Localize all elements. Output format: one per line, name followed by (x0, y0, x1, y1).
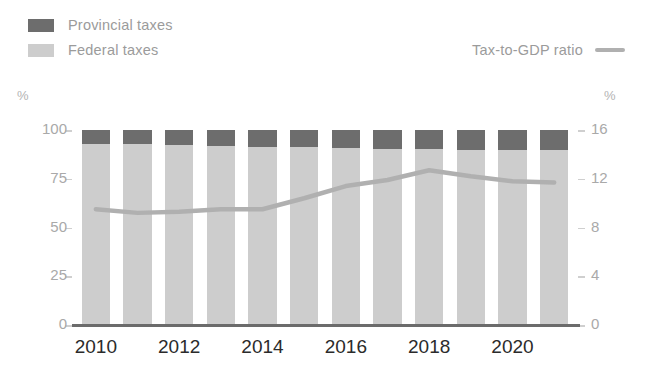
right-axis-unit: % (604, 88, 616, 103)
line-path-tax-to-gdp-ratio (96, 170, 554, 213)
right-tick-label: 4 (591, 266, 649, 283)
right-tick-mark (578, 130, 585, 132)
left-tick-label: 25 (7, 266, 67, 283)
legend-item-provincial-taxes[interactable]: Provincial taxes (28, 14, 173, 36)
x-axis-tick-label: 2020 (491, 336, 533, 358)
legend-label-tax-to-gdp-ratio: Tax-to-GDP ratio (472, 42, 583, 58)
right-tick-mark (578, 228, 585, 230)
x-axis-baseline (72, 324, 580, 327)
legend-swatch-federal-taxes (28, 44, 54, 57)
legend-label-provincial-taxes: Provincial taxes (68, 17, 173, 33)
chart-figure: Provincial taxes Federal taxes Tax-to-GD… (0, 0, 649, 381)
x-axis-tick-label: 2012 (158, 336, 200, 358)
legend-swatch-provincial-taxes (28, 19, 54, 32)
left-tick-label: 0 (7, 315, 67, 332)
legend-swatch-tax-to-gdp-ratio (595, 48, 625, 52)
legend-line[interactable]: Tax-to-GDP ratio (472, 42, 625, 58)
left-tick-label: 50 (7, 218, 67, 235)
left-axis-unit: % (17, 88, 29, 103)
x-axis-tick-label: 2010 (75, 336, 117, 358)
right-tick-label: 12 (591, 169, 649, 186)
x-axis-tick-label: 2014 (241, 336, 283, 358)
legend-bars: Provincial taxes Federal taxes (28, 14, 173, 64)
legend-item-federal-taxes[interactable]: Federal taxes (28, 39, 173, 61)
line-series-tax-to-gdp-ratio (75, 130, 575, 325)
x-axis-tick-label: 2016 (325, 336, 367, 358)
legend-label-federal-taxes: Federal taxes (68, 42, 158, 58)
right-tick-mark (578, 276, 585, 278)
right-tick-label: 0 (591, 315, 649, 332)
left-tick-label: 100 (7, 120, 67, 137)
right-tick-mark (578, 179, 585, 181)
x-axis-tick-label: 2018 (408, 336, 450, 358)
right-tick-label: 16 (591, 120, 649, 137)
left-tick-label: 75 (7, 169, 67, 186)
right-tick-label: 8 (591, 218, 649, 235)
